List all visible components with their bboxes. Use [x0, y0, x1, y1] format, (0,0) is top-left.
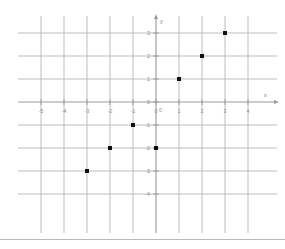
origin-label: 0: [159, 107, 162, 113]
x-tick-label: -1: [131, 108, 136, 114]
x-tick-label: 2: [201, 108, 204, 114]
x-axis-tick-labels: -5-4-3-2-101234: [39, 108, 250, 114]
y-tick-label: -4: [145, 191, 150, 197]
coordinate-plane-figure: -5-4-3-2-101234 3210-1-2-3-4 x y 0: [0, 0, 285, 249]
data-point-marker: [85, 169, 89, 173]
x-tick-label: 4: [247, 108, 250, 114]
x-tick-label: 3: [224, 108, 227, 114]
y-tick-label: 3: [147, 30, 150, 36]
data-point-marker: [223, 31, 227, 35]
x-tick-label: -2: [108, 108, 113, 114]
x-axis-label: x: [264, 92, 267, 98]
data-point-marker: [131, 123, 135, 127]
y-tick-label: -3: [145, 168, 150, 174]
x-tick-label: 0: [155, 108, 158, 114]
data-point-marker: [108, 146, 112, 150]
y-axis-tick-labels: 3210-1-2-3-4: [145, 30, 150, 197]
y-tick-label: 2: [147, 53, 150, 59]
data-point-marker: [200, 54, 204, 58]
coordinate-grid-svg: -5-4-3-2-101234 3210-1-2-3-4 x y 0: [0, 0, 285, 249]
y-axis-arrow-icon: [154, 14, 158, 19]
y-tick-label: -1: [145, 122, 150, 128]
x-tick-label: 1: [178, 108, 181, 114]
x-axis-arrow-icon: [274, 100, 279, 104]
data-point-marker: [154, 146, 158, 150]
y-axis-label: y: [160, 18, 163, 24]
x-tick-label: -4: [62, 108, 67, 114]
y-tick-label: -2: [145, 145, 150, 151]
y-tick-label: 0: [147, 99, 150, 105]
x-tick-label: -5: [39, 108, 44, 114]
bottom-rule: [0, 239, 285, 240]
data-point-marker: [177, 77, 181, 81]
y-tick-label: 1: [147, 76, 150, 82]
x-tick-label: -3: [85, 108, 90, 114]
